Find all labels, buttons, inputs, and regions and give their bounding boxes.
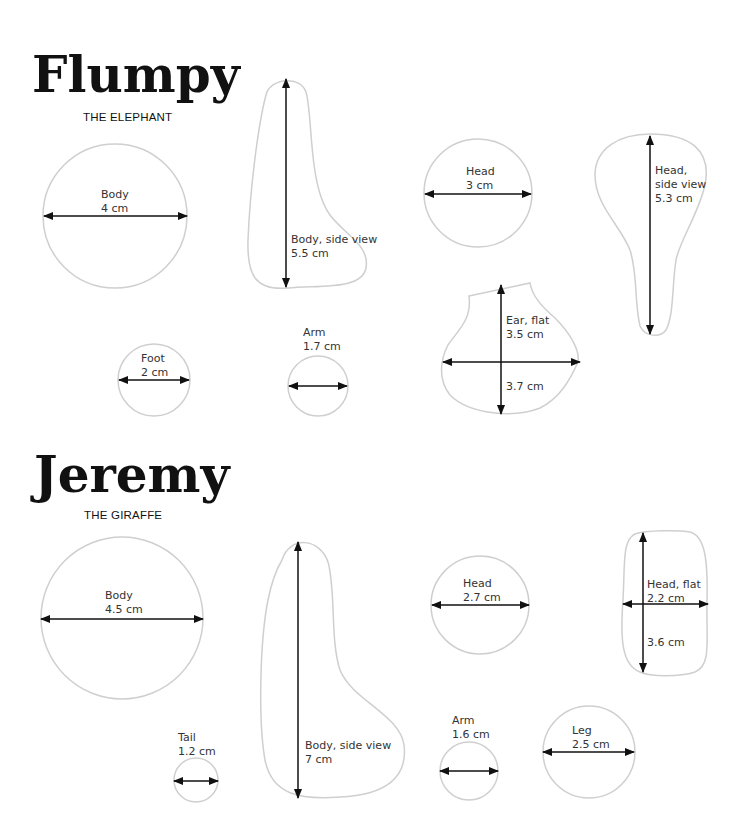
part-measure: 5.5 cm [291, 247, 377, 261]
part-name: Ear, flat [506, 314, 549, 328]
part-name: Leg [572, 724, 610, 738]
jeremy-body-label: Body 4.5 cm [105, 589, 143, 617]
jeremy-arm-shape [440, 742, 498, 800]
part-name: Foot [141, 352, 168, 366]
jeremy-body-side-label: Body, side view 7 cm [305, 739, 391, 767]
flumpy-body-shape [43, 144, 187, 288]
flumpy-head-label: Head 3 cm [466, 165, 495, 193]
part-measure: 7 cm [305, 753, 391, 767]
flumpy-body-label: Body 4 cm [101, 188, 129, 216]
part-measure: 2 cm [141, 366, 168, 380]
part-name: Head, [655, 164, 706, 178]
part-measure: 5.3 cm [655, 192, 706, 206]
part-measure: 1.7 cm [303, 340, 341, 354]
part-measure: 2.5 cm [572, 738, 610, 752]
jeremy-leg-label: Leg 2.5 cm [572, 724, 610, 752]
flumpy-head-side-label: Head, side view 5.3 cm [655, 164, 706, 206]
jeremy-arm-label: Arm 1.6 cm [452, 714, 490, 742]
part-measure: 4.5 cm [105, 603, 143, 617]
jeremy-body-shape [41, 537, 203, 699]
part-measure: 1.2 cm [178, 745, 216, 759]
part-measure: 1.6 cm [452, 728, 490, 742]
jeremy-head-shape [431, 556, 529, 654]
part-name: Head [463, 577, 501, 591]
part-name-line2: side view [655, 178, 706, 192]
jeremy-head-label: Head 2.7 cm [463, 577, 501, 605]
part-measure: 3 cm [466, 179, 495, 193]
jeremy-head-flat-label: Head, flat 2.2 cm [647, 578, 701, 606]
part-measure: 4 cm [101, 202, 129, 216]
jeremy-head-flat-height-label: 3.6 cm [647, 636, 685, 650]
pattern-canvas [0, 0, 739, 823]
jeremy-leg-shape [543, 706, 635, 798]
part-measure: 2.7 cm [463, 591, 501, 605]
flumpy-arm-label: Arm 1.7 cm [303, 326, 341, 354]
part-name: Body [105, 589, 143, 603]
flumpy-arm-shape [288, 356, 348, 416]
part-name: Body, side view [305, 739, 391, 753]
part-name: Body, side view [291, 233, 377, 247]
part-name: Head, flat [647, 578, 701, 592]
part-name: Head [466, 165, 495, 179]
part-name: Body [101, 188, 129, 202]
flumpy-ear-shape [442, 283, 581, 414]
flumpy-ear-label: Ear, flat 3.5 cm [506, 314, 549, 342]
part-name: Arm [303, 326, 341, 340]
jeremy-tail-shape [174, 758, 218, 802]
jeremy-tail-label: Tail 1.2 cm [178, 731, 216, 759]
part-name: Tail [178, 731, 216, 745]
part-name: Arm [452, 714, 490, 728]
part-measure: 2.2 cm [647, 592, 701, 606]
flumpy-ear-width-label: 3.7 cm [506, 380, 544, 394]
part-measure: 3.5 cm [506, 328, 549, 342]
flumpy-body-side-label: Body, side view 5.5 cm [291, 233, 377, 261]
flumpy-head-shape [424, 139, 532, 247]
flumpy-foot-label: Foot 2 cm [141, 352, 168, 380]
